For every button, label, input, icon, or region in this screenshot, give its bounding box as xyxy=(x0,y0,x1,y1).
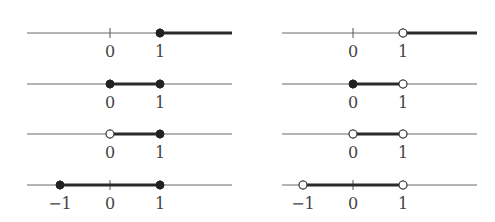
number-line-right-3: 01 xyxy=(282,129,477,162)
tick-label: 0 xyxy=(105,42,115,61)
number-line-right-1: 01 xyxy=(282,28,477,61)
closed-endpoint-icon xyxy=(156,80,164,88)
number-line-left-1: 01 xyxy=(27,28,232,61)
tick-label: 1 xyxy=(398,93,408,112)
closed-endpoint-icon xyxy=(156,130,164,138)
open-endpoint-icon xyxy=(399,130,407,138)
number-line-left-2: 01 xyxy=(27,79,232,112)
closed-endpoint-icon xyxy=(156,181,164,189)
tick-label: 0 xyxy=(105,143,115,162)
open-endpoint-icon xyxy=(399,29,407,37)
number-line-right-4: −101 xyxy=(282,180,477,213)
tick-label: −1 xyxy=(48,194,72,213)
tick-label: 1 xyxy=(155,143,165,162)
tick-label: 0 xyxy=(348,194,358,213)
tick-label: 0 xyxy=(348,42,358,61)
open-endpoint-icon xyxy=(299,181,307,189)
open-endpoint-icon xyxy=(106,130,114,138)
tick-label: 0 xyxy=(105,194,115,213)
tick-label: 0 xyxy=(348,93,358,112)
tick-label: −1 xyxy=(291,194,315,213)
tick-label: 1 xyxy=(398,42,408,61)
tick-label: 1 xyxy=(155,93,165,112)
interval-number-lines-figure: 010101−101010101−101 xyxy=(0,0,495,222)
tick-label: 1 xyxy=(155,194,165,213)
closed-endpoint-icon xyxy=(156,29,164,37)
tick-label: 1 xyxy=(155,42,165,61)
closed-endpoint-icon xyxy=(349,80,357,88)
tick-label: 1 xyxy=(398,194,408,213)
closed-endpoint-icon xyxy=(106,80,114,88)
number-line-left-4: −101 xyxy=(27,180,232,213)
tick-label: 0 xyxy=(105,93,115,112)
tick-label: 0 xyxy=(348,143,358,162)
number-line-right-2: 01 xyxy=(282,79,477,112)
closed-endpoint-icon xyxy=(56,181,64,189)
tick-label: 1 xyxy=(398,143,408,162)
open-endpoint-icon xyxy=(349,130,357,138)
open-endpoint-icon xyxy=(399,181,407,189)
number-line-left-3: 01 xyxy=(27,129,232,162)
open-endpoint-icon xyxy=(399,80,407,88)
